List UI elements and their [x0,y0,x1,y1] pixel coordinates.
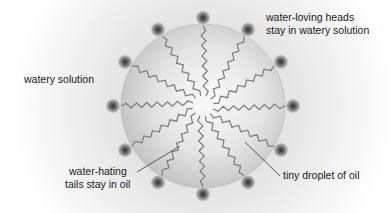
droplet-label: tiny droplet of oil [283,169,359,181]
hydrophilic-head [196,11,210,25]
watery-solution-label: watery solution [24,73,94,85]
tails-label-line1: water-hating [69,165,127,177]
hydrophilic-head [274,143,288,157]
oil-droplet [121,24,285,188]
heads-label-line2: stay in watery solution [266,24,369,36]
hydrophilic-head [106,99,120,113]
hydrophilic-head [274,55,288,69]
hydrophilic-head [241,175,255,189]
heads-label-line1: water-loving heads [266,11,354,23]
hydrophilic-head [241,23,255,37]
tails-label-line2: tails stay in oil [65,178,130,190]
hydrophilic-head [151,23,165,37]
hydrophilic-head [151,175,165,189]
hydrophilic-head [118,55,132,69]
hydrophilic-head [118,143,132,157]
hydrophilic-head [196,187,210,201]
hydrophilic-head [286,99,300,113]
